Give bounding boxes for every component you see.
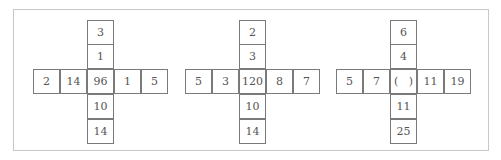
cell-center: 120 bbox=[239, 69, 266, 94]
cell-right-1: 8 bbox=[266, 69, 293, 94]
cell-bottom-1: 10 bbox=[239, 94, 266, 119]
cell-left-2: 3 bbox=[212, 69, 239, 94]
cell-left-1: 5 bbox=[336, 69, 363, 94]
cell-bottom-1: 10 bbox=[87, 94, 114, 119]
cell-right-2: 5 bbox=[141, 69, 168, 94]
cell-top-1: 2 bbox=[239, 20, 266, 45]
cell-top-2: 3 bbox=[239, 44, 266, 69]
cell-left-1: 2 bbox=[33, 69, 60, 94]
cell-top-1: 6 bbox=[390, 20, 417, 45]
cell-right-2: 7 bbox=[293, 69, 320, 94]
cell-left-1: 5 bbox=[185, 69, 212, 94]
cell-left-2: 14 bbox=[60, 69, 87, 94]
cell-bottom-2: 25 bbox=[390, 119, 417, 144]
cell-top-2: 4 bbox=[390, 44, 417, 69]
cell-bottom-1: 11 bbox=[390, 94, 417, 119]
cell-bottom-2: 14 bbox=[239, 119, 266, 144]
cell-right-1: 11 bbox=[417, 69, 444, 94]
cell-center: 96 bbox=[87, 69, 114, 94]
cell-top-1: 3 bbox=[87, 20, 114, 45]
cell-bottom-2: 14 bbox=[87, 119, 114, 144]
cell-left-2: 7 bbox=[363, 69, 390, 94]
cell-center-blank: ( ) bbox=[390, 69, 417, 94]
cell-right-2: 19 bbox=[444, 69, 471, 94]
cross-puzzle-3: 6 4 5 7 ( ) 11 19 11 25 bbox=[336, 20, 472, 145]
cell-top-2: 1 bbox=[87, 44, 114, 69]
cross-puzzle-2: 2 3 5 3 120 8 7 10 14 bbox=[185, 20, 321, 145]
cell-right-1: 1 bbox=[114, 69, 141, 94]
cross-puzzle-1: 3 1 2 14 96 1 5 10 14 bbox=[33, 20, 169, 145]
